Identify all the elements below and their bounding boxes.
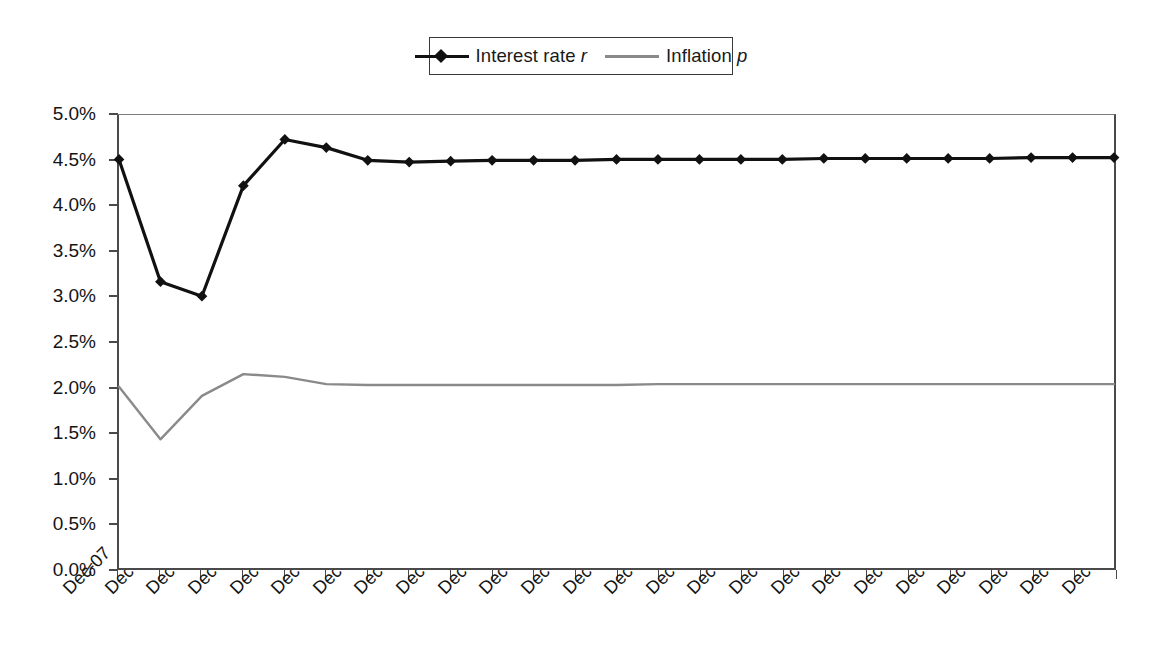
data-point-marker [943, 153, 954, 164]
legend-entry-inflation: Inflation p [605, 45, 747, 67]
data-point-marker [1067, 152, 1078, 163]
legend-symbol-r: r [581, 45, 587, 66]
y-tick-label: 1.5% [53, 422, 96, 444]
y-tick-label: 1.0% [53, 468, 96, 490]
legend-line-gray [605, 55, 659, 58]
y-tick-label: 3.5% [53, 240, 96, 262]
data-point-marker [487, 155, 498, 166]
chart-legend: Interest rate r Inflation p [429, 37, 733, 75]
data-point-marker [653, 154, 664, 165]
legend-key-interest-rate [415, 49, 469, 63]
data-point-marker [777, 154, 788, 165]
y-tick-label: 4.0% [53, 194, 96, 216]
legend-label-interest-rate: Interest rate r [476, 45, 588, 67]
data-point-marker [818, 153, 829, 164]
data-point-marker [321, 142, 332, 153]
data-point-marker [155, 276, 166, 287]
data-point-marker [694, 154, 705, 165]
data-point-marker [735, 154, 746, 165]
diamond-marker-icon [433, 49, 447, 63]
legend-label-interest-rate-text: Interest rate [476, 45, 576, 66]
data-point-marker [860, 153, 871, 164]
y-tick-label: 2.0% [53, 377, 96, 399]
data-point-marker [114, 154, 125, 165]
data-point-marker [570, 155, 581, 166]
y-tick-label: 2.5% [53, 331, 96, 353]
legend-label-inflation: Inflation p [666, 45, 747, 67]
data-point-marker [611, 154, 622, 165]
plot-area [117, 114, 1116, 570]
series-layer [119, 115, 1114, 568]
legend-key-inflation [605, 49, 659, 63]
data-point-marker [445, 156, 456, 167]
data-point-marker [901, 153, 912, 164]
x-tick-mark [1116, 570, 1117, 579]
data-point-marker [528, 155, 539, 166]
y-tick-label: 0.5% [53, 513, 96, 535]
data-point-marker [984, 153, 995, 164]
y-tick-label: 4.5% [53, 149, 96, 171]
chart-figure: Interest rate r Inflation p 5.0%4.5%4.0%… [0, 0, 1156, 671]
legend-label-inflation-text: Inflation [666, 45, 732, 66]
series-line-inflation [119, 374, 1114, 439]
data-point-marker [1109, 152, 1120, 163]
y-tick-label: 3.0% [53, 285, 96, 307]
data-point-marker [197, 291, 208, 302]
data-point-marker [362, 155, 373, 166]
data-point-marker [404, 157, 415, 168]
y-tick-label: 5.0% [53, 103, 96, 125]
data-point-marker [1026, 152, 1037, 163]
legend-symbol-p: p [737, 45, 747, 66]
legend-entry-interest-rate: Interest rate r [415, 45, 588, 67]
